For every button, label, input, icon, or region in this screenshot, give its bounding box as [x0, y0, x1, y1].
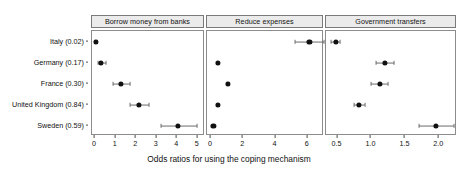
error-bar-cap-upper — [454, 123, 455, 127]
facet-strip-label: Government transfers — [355, 17, 426, 26]
y-axis-tick — [86, 40, 89, 41]
error-bar-cap-upper — [388, 81, 389, 85]
estimate-point — [99, 60, 104, 65]
error-bar-cap-lower — [294, 39, 295, 43]
x-axis-tick — [274, 135, 275, 138]
estimate-point — [215, 102, 220, 107]
estimate-point — [118, 81, 123, 86]
x-axis-tick-label: 0 — [92, 139, 96, 148]
error-bar-cap-lower — [130, 102, 131, 106]
error-bar-cap-lower — [419, 123, 420, 127]
error-bar-cap-lower — [160, 123, 161, 127]
error-bar-cap-lower — [112, 81, 113, 85]
panel-borrow-money-from-banks — [91, 30, 204, 135]
x-axis-tick-label: 1.5 — [399, 139, 409, 148]
y-axis-label-sweden-0-59: Sweden (0.59) — [37, 120, 84, 129]
x-axis-tick-label: 2 — [133, 139, 137, 148]
y-axis-tick — [86, 103, 89, 104]
estimate-point — [307, 39, 312, 44]
estimate-point — [377, 81, 382, 86]
x-axis-tick — [94, 135, 95, 138]
x-axis-title: Odds ratios for using the coping mechani… — [0, 154, 458, 164]
facet-strip-label: Reduce expenses — [235, 17, 293, 26]
estimate-point — [211, 123, 216, 128]
estimate-point — [216, 60, 221, 65]
error-bar-cap-upper — [196, 123, 197, 127]
x-axis-tick-label: 4 — [174, 139, 178, 148]
x-axis-tick — [336, 135, 337, 138]
estimate-point — [382, 60, 387, 65]
y-axis-label-italy-0-02: Italy (0.02) — [50, 36, 84, 45]
x-axis-tick — [370, 135, 371, 138]
x-axis-tick-label: 5 — [195, 139, 199, 148]
x-axis-borrow-money-from-banks: 012345 — [91, 135, 204, 151]
y-axis-label-germany-0-17: Germany (0.17) — [34, 57, 84, 66]
panel-government-transfers — [325, 30, 456, 135]
facet-strip-government-transfers: Government transfers — [325, 15, 456, 28]
estimate-point — [225, 81, 230, 86]
x-axis-reduce-expenses: 0246 — [206, 135, 323, 151]
x-axis-tick-label: 6 — [305, 139, 309, 148]
error-bar-cap-lower — [331, 39, 332, 43]
estimate-point — [176, 123, 181, 128]
panel-reduce-expenses — [206, 30, 323, 135]
x-axis-tick-label: 4 — [273, 139, 277, 148]
estimate-point — [357, 102, 362, 107]
facet-strip-borrow-money-from-banks: Borrow money from banks — [91, 15, 204, 28]
error-bar-cap-lower — [353, 102, 354, 106]
x-axis-tick — [438, 135, 439, 138]
x-axis-tick — [210, 135, 211, 138]
x-axis-tick — [155, 135, 156, 138]
x-axis-tick — [114, 135, 115, 138]
error-bar-cap-upper — [340, 39, 341, 43]
x-axis-tick-label: 1 — [113, 139, 117, 148]
y-axis-label-united-kingdom-0-84: United Kingdom (0.84) — [12, 99, 84, 108]
x-axis-tick-label: 0.5 — [332, 139, 342, 148]
forest-plot-figure: Borrow money from banks Reduce expenses … — [0, 0, 458, 173]
error-bar-cap-lower — [376, 60, 377, 64]
estimate-point — [433, 123, 438, 128]
y-axis-category-labels: Italy (0.02)Germany (0.17)France (0.30)U… — [0, 30, 88, 135]
facet-strip-reduce-expenses: Reduce expenses — [206, 15, 323, 28]
error-bar-cap-upper — [365, 102, 366, 106]
x-axis-tick-label: 2 — [240, 139, 244, 148]
x-axis-tick-label: 1.0 — [365, 139, 375, 148]
x-axis-tick-label: 3 — [154, 139, 158, 148]
estimate-point — [94, 39, 99, 44]
x-axis-tick — [306, 135, 307, 138]
x-axis-tick — [404, 135, 405, 138]
y-axis-tick — [86, 61, 89, 62]
x-axis-tick — [176, 135, 177, 138]
y-axis-label-france-0-30: France (0.30) — [41, 78, 84, 87]
x-axis-tick-label: 2.0 — [433, 139, 443, 148]
y-axis-tick — [86, 82, 89, 83]
facet-strip-label: Borrow money from banks — [105, 17, 190, 26]
x-axis-tick — [196, 135, 197, 138]
estimate-point — [333, 39, 338, 44]
x-axis-tick — [135, 135, 136, 138]
error-bar-cap-upper — [148, 102, 149, 106]
error-bar-cap-upper — [393, 60, 394, 64]
estimate-point — [137, 102, 142, 107]
x-axis-government-transfers: 0.51.01.52.0 — [325, 135, 456, 151]
x-axis-tick-label: 0 — [208, 139, 212, 148]
y-axis-tick — [86, 124, 89, 125]
error-bar-cap-upper — [130, 81, 131, 85]
error-bar-cap-lower — [371, 81, 372, 85]
error-bar-cap-upper — [105, 60, 106, 64]
x-axis-tick — [242, 135, 243, 138]
